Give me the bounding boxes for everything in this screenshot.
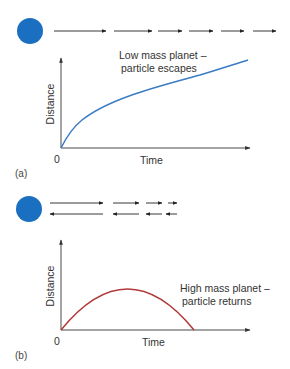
annotation-line1: High mass planet – — [180, 282, 270, 294]
panel-label: (b) — [15, 350, 27, 361]
x-axis-label: Time — [140, 154, 163, 166]
x-axis-label: Time — [142, 336, 165, 348]
planet-icon — [16, 196, 42, 222]
panel-b: High mass planet – particle returns Dist… — [15, 196, 270, 361]
planet-icon — [17, 18, 43, 44]
y-axis-label: Distance — [44, 265, 56, 306]
y-axis-label: Distance — [44, 83, 56, 124]
return-curve — [61, 289, 194, 330]
annotation-line2: particle escapes — [121, 62, 197, 74]
annotation-line2: particle returns — [182, 295, 251, 307]
annotation-line1: Low mass planet – — [119, 49, 207, 61]
origin-label: 0 — [54, 335, 60, 347]
panel-a: Low mass planet – particle escapes Dista… — [15, 18, 276, 179]
panel-label: (a) — [15, 168, 27, 179]
figure-canvas: Low mass planet – particle escapes Dista… — [0, 0, 290, 369]
origin-label: 0 — [54, 153, 60, 165]
